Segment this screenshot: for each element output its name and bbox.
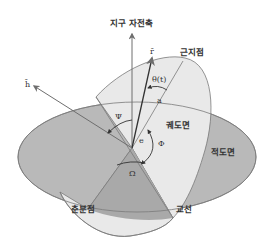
equatorial-plane-label: 적도면 [211, 147, 235, 157]
angular-momentum-symbol: h̄ [24, 79, 30, 89]
vernal-equinox-label: 춘분점 [71, 204, 95, 214]
ascending-node-symbol: Ω [129, 169, 136, 178]
argument-of-perigee-symbol: Φ [158, 139, 165, 148]
orbital-plane-label: 궤도면 [166, 120, 190, 130]
line-of-nodes-label: 교선 [176, 204, 192, 214]
inclination-symbol: Ψ [115, 112, 122, 121]
perigee-label: 근지점 [180, 47, 204, 57]
eccentricity-symbol: e [139, 136, 144, 145]
earth-axis-label: 지구 자전축 [110, 18, 153, 28]
semi-major-axis-symbol: a [157, 96, 162, 105]
orbital-elements-diagram: 지구 자전축 근지점 궤도면 적도면 춘분점 교선 r̄ h̄ θ(t) a e… [0, 0, 263, 251]
position-vector-symbol: r̄ [150, 47, 154, 56]
true-anomaly-symbol: θ(t) [152, 75, 166, 84]
